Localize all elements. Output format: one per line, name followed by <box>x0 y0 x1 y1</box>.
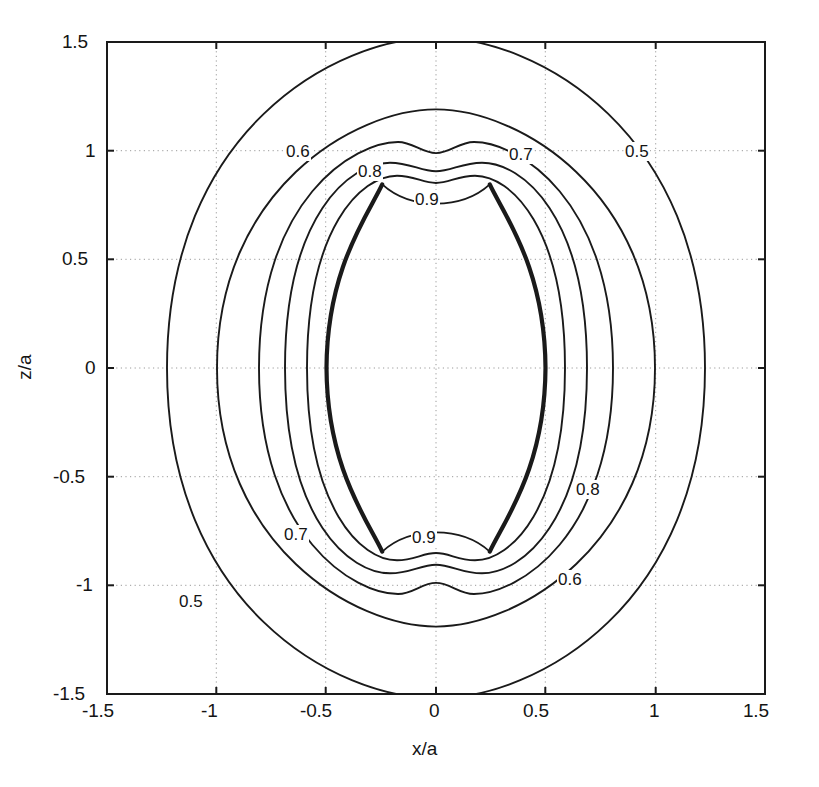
ytick-label-0: 1.5 <box>62 31 88 53</box>
contour-label-0-9-lower: 0.9 <box>411 528 437 547</box>
ytick-label-6: -1.5 <box>53 683 85 705</box>
xtick-label-4: 0.5 <box>523 700 549 722</box>
xtick-label-0: -1.5 <box>82 700 114 722</box>
contour-plot-canvas <box>0 0 819 787</box>
contour-label-0-7-lower: 0.7 <box>283 525 309 544</box>
contour-label-0-5-lower: 0.5 <box>178 592 204 611</box>
y-axis-label: z/a <box>14 347 36 387</box>
contour-label-0-8-lower: 0.8 <box>575 480 601 499</box>
xtick-label-5: 1 <box>649 700 659 722</box>
ytick-label-4: -0.5 <box>53 466 85 488</box>
ytick-label-2: 0.5 <box>62 248 88 270</box>
contour-label-0-6-upper: 0.6 <box>285 142 311 161</box>
xtick-label-3: 0 <box>429 700 439 722</box>
ytick-label-3: 0 <box>85 357 95 379</box>
contour-plot-figure: -1.5 -1 -0.5 0 0.5 1 1.5 1.5 1 0.5 0 -0.… <box>0 0 819 787</box>
contour-label-0-7-upper: 0.7 <box>508 145 534 164</box>
ytick-label-5: -1 <box>76 574 93 596</box>
contour-label-0-9-upper: 0.9 <box>414 190 440 209</box>
contour-label-0-8-upper: 0.8 <box>357 162 383 181</box>
x-axis-label: x/a <box>412 738 437 760</box>
xtick-label-6: 1.5 <box>743 700 769 722</box>
ytick-label-1: 1 <box>85 140 95 162</box>
xtick-label-2: -0.5 <box>300 700 332 722</box>
contour-label-0-6-lower: 0.6 <box>557 570 583 589</box>
xtick-label-1: -1 <box>201 700 218 722</box>
contour-label-0-5-upper: 0.5 <box>624 142 650 161</box>
grid-lines <box>107 42 765 694</box>
